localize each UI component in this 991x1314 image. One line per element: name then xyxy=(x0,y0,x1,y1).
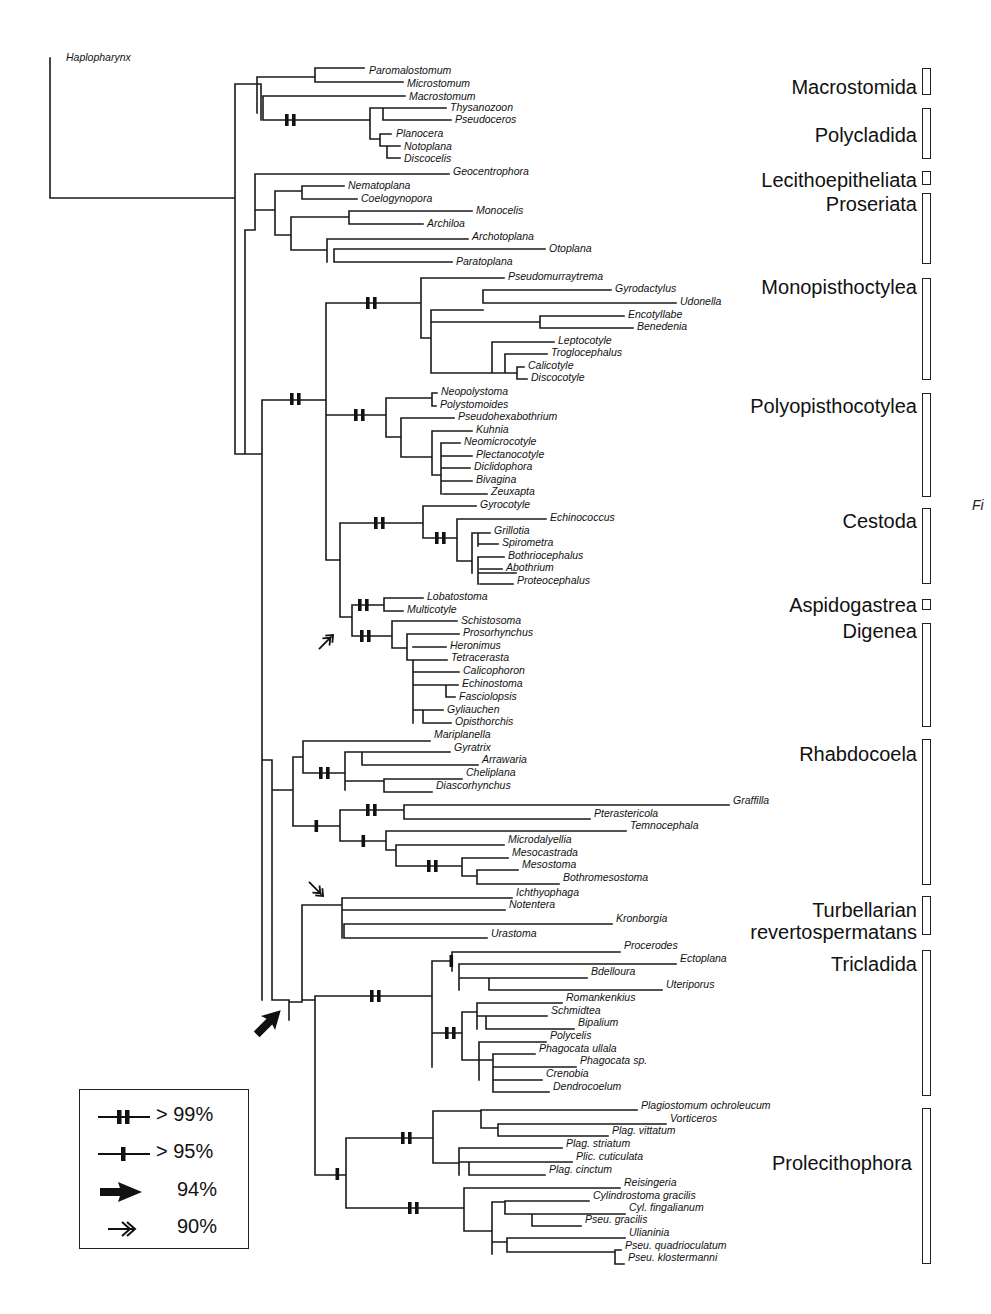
clade-label: Macrostomida xyxy=(791,76,917,98)
taxon-label: Polycelis xyxy=(550,1030,591,1041)
taxon-label: Geocentrophora xyxy=(453,166,529,177)
taxon-label: Vorticeros xyxy=(670,1113,717,1124)
taxon-label: Grillotia xyxy=(494,525,530,536)
taxon-label: Dendrocoelum xyxy=(553,1081,621,1092)
clade-bracket xyxy=(922,599,931,610)
taxon-label: Gyrocotyle xyxy=(480,499,530,510)
taxon-label: Romankenkius xyxy=(566,992,635,1003)
taxon-label: Paratoplana xyxy=(456,256,513,267)
single-bar-icon xyxy=(94,1141,154,1167)
support-single-bar-icon xyxy=(336,1168,340,1180)
taxon-label: Leptocotyle xyxy=(558,335,612,346)
taxon-label: Prosorhynchus xyxy=(463,627,533,638)
clade-label: Polyopisthocotylea xyxy=(750,395,917,417)
taxon-label: Graffilla xyxy=(733,795,769,806)
taxon-label: Gyrodactylus xyxy=(615,283,676,294)
taxon-label: Temnocephala xyxy=(630,820,699,831)
taxon-label: Neopolystoma xyxy=(441,386,508,397)
taxon-label: Multicotyle xyxy=(407,604,457,615)
clade-bracket xyxy=(922,896,931,935)
taxon-label: Bothromesostoma xyxy=(563,872,648,883)
taxon-label: Schistosoma xyxy=(461,615,521,626)
clade-label: Tricladida xyxy=(831,953,917,975)
legend-item-single-bar: > 95% xyxy=(80,1137,250,1171)
clade-label: Cestoda xyxy=(843,510,918,532)
taxon-label: Reisingeria xyxy=(624,1177,677,1188)
taxon-label: Monocelis xyxy=(476,205,523,216)
taxon-label: Planocera xyxy=(396,128,443,139)
clade-label: Rhabdocoela xyxy=(799,743,917,765)
taxon-label: Benedenia xyxy=(637,321,687,332)
support-legend: > 99% > 95% 94% 90% xyxy=(79,1089,249,1249)
taxon-label: Microstomum xyxy=(407,78,470,89)
clade-bracket xyxy=(922,171,931,185)
taxon-label: Kronborgia xyxy=(616,913,667,924)
taxon-label: Zeuxapta xyxy=(491,486,535,497)
taxon-label: Coelogynopora xyxy=(361,193,432,204)
support-single-bar-icon xyxy=(315,820,319,832)
taxon-label: Procerodes xyxy=(624,940,678,951)
legend-label: 90% xyxy=(177,1215,217,1238)
taxon-label: Gyratrix xyxy=(454,742,491,753)
taxon-label: Notoplana xyxy=(404,141,452,152)
taxon-label: Cyl. fingalianum xyxy=(629,1202,704,1213)
taxon-label: Plag. cinctum xyxy=(549,1164,612,1175)
clade-bracket xyxy=(922,739,931,885)
tree-branches xyxy=(50,58,729,1264)
clade-bracket xyxy=(922,623,931,727)
taxon-label: Bivagina xyxy=(476,474,516,485)
open-double-arrow-icon xyxy=(315,631,336,652)
taxon-label: Archotoplana xyxy=(472,231,534,242)
taxon-label: Pseudohexabothrium xyxy=(458,411,557,422)
taxon-label: Mariplanella xyxy=(434,729,491,740)
clade-bracket xyxy=(922,508,931,584)
clade-bracket xyxy=(922,278,931,380)
taxon-label: Bothriocephalus xyxy=(508,550,583,561)
taxon-label: Kuhnia xyxy=(476,424,509,435)
clade-bracket xyxy=(922,950,931,1096)
taxon-label: Fasciolopsis xyxy=(459,691,517,702)
taxon-label: Otoplana xyxy=(549,243,592,254)
legend-label: 94% xyxy=(177,1178,217,1201)
taxon-label: Phagocata ullala xyxy=(539,1043,617,1054)
clade-label: Turbellarianrevertospermatans xyxy=(750,899,917,943)
clade-label: Monopisthoctylea xyxy=(761,276,917,298)
clade-label: Polycladida xyxy=(815,124,917,146)
support-single-bar-icon xyxy=(362,835,366,847)
taxon-label: Abothrium xyxy=(506,562,554,573)
branch-paths xyxy=(50,58,729,1264)
legend-item-open-double-arrow: 90% xyxy=(80,1212,250,1246)
taxon-label: Plagiostomum ochroleucum xyxy=(641,1100,771,1111)
taxon-label: Phagocata sp. xyxy=(580,1055,647,1066)
taxon-label: Troglocephalus xyxy=(551,347,622,358)
clade-label: Proseriata xyxy=(826,193,917,215)
taxon-label: Cylindrostoma gracilis xyxy=(593,1190,696,1201)
taxon-label: Thysanozoon xyxy=(450,102,513,113)
solid-arrow-icon xyxy=(250,1003,288,1041)
taxon-label: Calicotyle xyxy=(528,360,574,371)
clade-bracket xyxy=(922,1108,931,1264)
legend-item-solid-arrow: 94% xyxy=(80,1175,250,1209)
open-double-arrow-icon xyxy=(94,1216,154,1242)
taxon-label: Pseu. klostermanni xyxy=(628,1252,717,1263)
taxon-label: Microdalyellia xyxy=(508,834,572,845)
taxon-label: Pseu. gracilis xyxy=(585,1214,647,1225)
taxon-label: Ulianinia xyxy=(629,1227,669,1238)
taxon-label: Encotyllabe xyxy=(628,309,682,320)
taxon-label: Bipalium xyxy=(578,1017,618,1028)
taxon-label: Ectoplana xyxy=(680,953,727,964)
taxon-label: Uteriporus xyxy=(666,979,714,990)
taxon-label: Plectanocotyle xyxy=(476,449,544,460)
taxon-label: Spirometra xyxy=(502,537,553,548)
taxon-label: Pseudomurraytrema xyxy=(508,271,603,282)
taxon-label: Diclidophora xyxy=(474,461,532,472)
clade-label: Prolecithophora xyxy=(772,1152,912,1174)
solid-arrow-icon xyxy=(94,1179,154,1205)
taxon-label: Plag. striatum xyxy=(566,1138,630,1149)
support-single-bar-icon xyxy=(450,955,454,967)
clade-bracket xyxy=(922,108,931,159)
clade-bracket xyxy=(922,193,931,264)
figure-caption-fragment: Fi xyxy=(972,497,984,513)
legend-label: > 99% xyxy=(156,1103,213,1126)
clade-bracket xyxy=(922,68,931,95)
